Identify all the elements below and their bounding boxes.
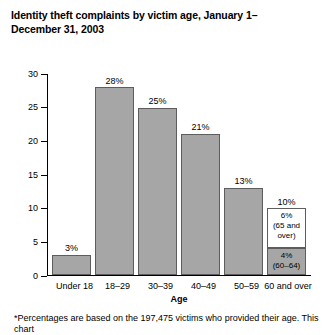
bar-label-40-49: 21% (181, 122, 220, 132)
y-tick-label: 15 (28, 170, 38, 180)
bar-segment-60-64[interactable]: 4% (60–64) (267, 248, 306, 275)
bar-segment-65-and-over[interactable]: 6% (65 and over) (267, 208, 306, 248)
x-axis-title: Age (47, 294, 311, 304)
bar-40-49[interactable] (181, 134, 220, 275)
bar-label-18-29: 28% (95, 76, 134, 86)
y-tick-label: 25 (28, 102, 38, 112)
bar-30-39[interactable] (138, 108, 177, 276)
segment-value-65-and-over: 6% (268, 211, 305, 221)
bar-label-50-59: 13% (224, 176, 263, 186)
y-tick-label: 20 (28, 136, 38, 146)
bar-label-under-18: 3% (52, 243, 91, 253)
segment-sublabel-60-64: (60–64) (268, 261, 305, 271)
segment-value-60-64: 4% (268, 251, 305, 261)
y-tick-mark (41, 276, 47, 277)
y-tick-label: 30 (28, 69, 38, 79)
bar-label-30-39: 25% (138, 96, 177, 106)
y-tick-label: 10 (28, 203, 38, 213)
bar-50-59[interactable] (224, 188, 263, 275)
segment-sublabel-65-and-over-line2: over) (268, 231, 305, 241)
plot-area: 3% 28% 25% 21% 13% 4% (60–64) 6% (65 and… (47, 74, 310, 275)
segment-sublabel-65-and-over-line1: (65 and (268, 221, 305, 231)
y-tick-label: 5 (33, 237, 38, 247)
bar-18-29[interactable] (95, 87, 134, 275)
bar-label-60-and-over: 10% (267, 197, 306, 207)
x-category-60-and-over: 60 and over (249, 281, 327, 291)
y-tick-label: 0 (33, 271, 38, 281)
bar-under-18[interactable] (52, 255, 91, 275)
footnote-text: *Percentages are based on the 197,475 vi… (14, 313, 320, 335)
page-title: Identity theft complaints by victim age,… (11, 9, 301, 36)
x-axis-line (47, 275, 311, 276)
